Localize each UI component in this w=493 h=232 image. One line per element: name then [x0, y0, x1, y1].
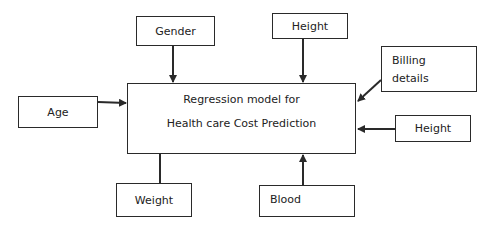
input-box-height-top: Height	[272, 13, 348, 39]
billing-label-line2: details	[392, 70, 476, 88]
central-model-box: Regression model for Health care Cost Pr…	[127, 83, 356, 154]
input-box-age: Age	[18, 96, 98, 128]
input-box-blood: Blood	[259, 185, 355, 217]
gender-label: Gender	[155, 25, 196, 38]
height-right-label: Height	[415, 122, 451, 135]
input-box-gender: Gender	[136, 16, 215, 46]
arrow-billing	[358, 80, 381, 101]
input-box-height-right: Height	[395, 115, 471, 142]
billing-label-line1: Billing	[392, 52, 476, 70]
central-title-line2: Health care Cost Prediction	[128, 117, 355, 130]
age-label: Age	[47, 106, 68, 119]
weight-label: Weight	[135, 194, 173, 207]
input-box-billing-details: Billing details	[381, 46, 477, 92]
blood-label: Blood	[270, 193, 301, 206]
height-top-label: Height	[292, 20, 328, 33]
arrow-age	[98, 102, 126, 103]
input-box-weight: Weight	[116, 183, 192, 217]
central-title-line1: Regression model for	[128, 93, 355, 106]
